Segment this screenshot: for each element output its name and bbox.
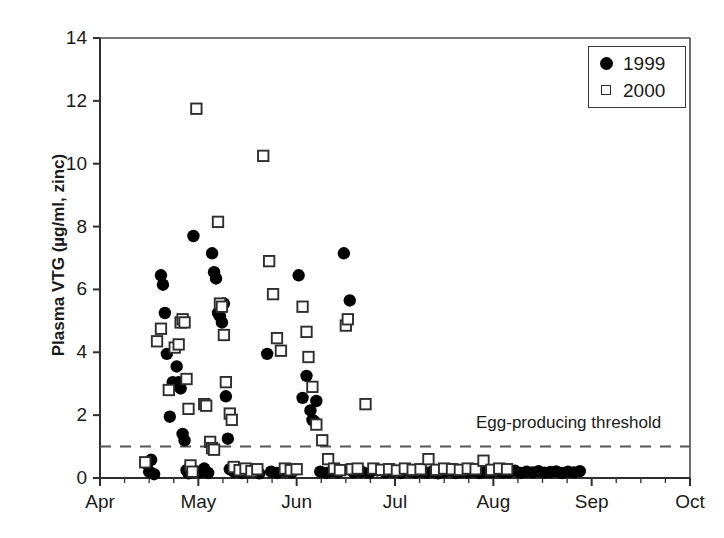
x-axis-tick-label: Sep (557, 492, 627, 511)
y-axis-tick-label: 2 (47, 405, 87, 424)
data-point-2000 (201, 401, 211, 411)
data-point-2000 (221, 377, 231, 387)
data-point-1999 (216, 316, 228, 328)
open-square-icon (593, 85, 619, 95)
data-point-2000 (301, 327, 311, 337)
series-2000 (140, 104, 512, 477)
data-point-2000 (183, 404, 193, 414)
data-point-2000 (164, 385, 174, 395)
data-point-2000 (502, 464, 512, 474)
data-point-1999 (300, 370, 312, 382)
data-point-1999 (187, 230, 199, 242)
legend-label: 1999 (619, 54, 665, 73)
data-point-2000 (219, 330, 229, 340)
data-point-2000 (268, 289, 278, 299)
egg-producing-threshold-label: Egg-producing threshold (476, 414, 661, 431)
data-point-2000 (227, 415, 237, 425)
data-point-1999 (210, 272, 222, 284)
data-point-2000 (173, 339, 183, 349)
data-point-1999 (159, 307, 171, 319)
data-point-2000 (311, 419, 321, 429)
legend-item-1999: 1999 (593, 50, 665, 76)
y-axis-tick-label: 4 (47, 342, 87, 361)
data-point-2000 (307, 382, 317, 392)
data-point-2000 (317, 435, 327, 445)
y-axis-tick-label: 0 (47, 468, 87, 487)
data-point-2000 (423, 454, 433, 464)
data-point-1999 (164, 411, 176, 423)
data-point-1999 (310, 395, 322, 407)
data-point-2000 (303, 352, 313, 362)
x-axis-tick-label: May (163, 492, 233, 511)
y-axis-tick-label: 6 (47, 279, 87, 298)
legend: 1999 2000 (588, 46, 686, 108)
data-point-2000 (352, 463, 362, 473)
data-point-2000 (258, 151, 268, 161)
data-point-2000 (343, 314, 353, 324)
x-axis-tick-label: Apr (65, 492, 135, 511)
data-point-2000 (272, 333, 282, 343)
y-axis-tick-label: 8 (47, 217, 87, 236)
legend-item-2000: 2000 (593, 77, 665, 103)
data-point-2000 (252, 464, 262, 474)
data-point-2000 (264, 256, 274, 266)
legend-label: 2000 (619, 81, 665, 100)
data-point-1999 (222, 433, 234, 445)
y-axis-tick-label: 14 (47, 28, 87, 47)
data-point-2000 (179, 317, 189, 327)
data-point-2000 (191, 104, 201, 114)
data-point-2000 (360, 399, 370, 409)
x-axis-tick-label: Jul (360, 492, 430, 511)
data-point-2000 (291, 464, 301, 474)
data-point-2000 (213, 217, 223, 227)
data-point-1999 (202, 467, 214, 479)
data-point-1999 (148, 468, 160, 480)
filled-circle-icon (593, 57, 619, 70)
data-point-1999 (178, 434, 190, 446)
x-axis-tick-label: Aug (458, 492, 528, 511)
data-point-1999 (338, 247, 350, 259)
data-point-1999 (344, 294, 356, 306)
data-point-1999 (261, 348, 273, 360)
data-point-2000 (335, 465, 345, 475)
x-axis-tick-label: Oct (655, 492, 724, 511)
data-point-2000 (217, 302, 227, 312)
data-point-2000 (209, 445, 219, 455)
x-axis-tick-label: Jun (262, 492, 332, 511)
data-point-2000 (187, 467, 197, 477)
y-axis-tick-label: 10 (47, 154, 87, 173)
data-point-1999 (206, 247, 218, 259)
data-point-1999 (171, 360, 183, 372)
data-point-1999 (220, 390, 232, 402)
data-point-2000 (276, 346, 286, 356)
data-point-2000 (415, 464, 425, 474)
data-point-2000 (156, 324, 166, 334)
data-point-2000 (181, 374, 191, 384)
data-point-2000 (152, 336, 162, 346)
data-point-1999 (574, 465, 586, 477)
data-point-1999 (292, 269, 304, 281)
data-point-2000 (297, 302, 307, 312)
y-axis-tick-label: 12 (47, 91, 87, 110)
data-point-1999 (296, 392, 308, 404)
scatter-plot-figure: Plasma VTG (µg/ml, zinc) 02468101214 Apr… (0, 0, 724, 538)
data-point-1999 (157, 279, 169, 291)
data-point-2000 (140, 457, 150, 467)
